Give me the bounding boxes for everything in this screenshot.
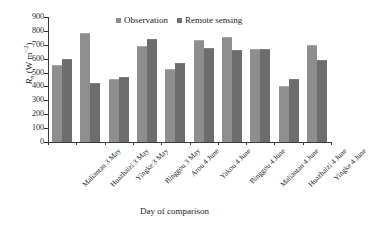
plot-area [48, 17, 331, 142]
bar-remote-sensing [90, 83, 100, 142]
y-axis-tick [44, 31, 48, 32]
y-axis-tick-label: 400 [4, 82, 44, 90]
x-axis-tick [48, 142, 49, 145]
bar-remote-sensing [260, 49, 270, 142]
bar-observation [80, 33, 90, 142]
bar-remote-sensing [175, 63, 185, 142]
x-axis-title: Day of comparison [0, 206, 349, 216]
y-axis-tick-label: 900 [4, 13, 44, 21]
bar-group [246, 17, 274, 142]
x-axis-tick [161, 142, 162, 145]
x-axis-tick [133, 142, 134, 145]
y-axis-tick-label: 0 [4, 138, 44, 146]
y-axis-tick [44, 45, 48, 46]
bar-group [190, 17, 218, 142]
y-axis-tick [44, 73, 48, 74]
bar-remote-sensing [232, 50, 242, 142]
bar-group [48, 17, 76, 142]
x-axis-tick [218, 142, 219, 145]
bar-observation [165, 69, 175, 142]
y-axis-tick [44, 59, 48, 60]
bar-observation [222, 37, 232, 142]
x-axis-tick [303, 142, 304, 145]
bar-group [274, 17, 302, 142]
x-axis-tick [331, 142, 332, 145]
bar-observation [194, 40, 204, 142]
y-axis-tick-label: 200 [4, 110, 44, 118]
y-axis-tick [44, 86, 48, 87]
bar-remote-sensing [147, 39, 157, 142]
x-axis-tick [76, 142, 77, 145]
bar-remote-sensing [289, 79, 299, 142]
bar-group [76, 17, 104, 142]
y-axis-tick [44, 100, 48, 101]
x-axis-category-label: Yakou 4 June [219, 147, 253, 181]
x-axis-tick [274, 142, 275, 145]
y-axis-tick-label: 600 [4, 55, 44, 63]
y-axis-tick-label: 800 [4, 27, 44, 35]
x-axis-tick [246, 142, 247, 145]
bar-groups [48, 17, 331, 142]
bar-remote-sensing [62, 59, 72, 142]
bar-observation [279, 86, 289, 142]
y-axis-tick-label: 300 [4, 96, 44, 104]
bar-group [303, 17, 331, 142]
y-axis-tick-label: 700 [4, 41, 44, 49]
y-axis-tick-label: 500 [4, 69, 44, 77]
bar-observation [137, 46, 147, 142]
bar-group [133, 17, 161, 142]
y-axis-tick-label: 100 [4, 124, 44, 132]
bar-remote-sensing [317, 60, 327, 142]
bar-group [161, 17, 189, 142]
bar-remote-sensing [119, 77, 129, 142]
y-axis-tick-labels: 9008007006005004003002001000 [0, 0, 44, 160]
bar-group [105, 17, 133, 142]
bar-observation [250, 49, 260, 142]
bar-group [218, 17, 246, 142]
bar-observation [52, 65, 62, 142]
bar-observation [307, 45, 317, 142]
y-axis-tick [44, 17, 48, 18]
x-axis-tick [105, 142, 106, 145]
x-axis-tick [190, 142, 191, 145]
bar-remote-sensing [204, 48, 214, 142]
bar-observation [109, 79, 119, 142]
y-axis-tick [44, 128, 48, 129]
y-axis-tick [44, 114, 48, 115]
